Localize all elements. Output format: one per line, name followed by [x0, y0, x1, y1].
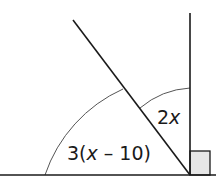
- angle-label-left: 3(x – 10): [67, 142, 151, 164]
- angle-diagram: 3(x – 10) 2x: [0, 0, 216, 177]
- angle-arc-right: [140, 88, 190, 108]
- right-angle-marker: [190, 151, 210, 175]
- angle-label-right: 2x: [157, 106, 181, 128]
